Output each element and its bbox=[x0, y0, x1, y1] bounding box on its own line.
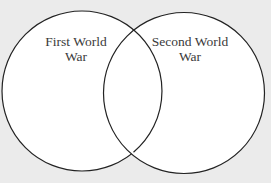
label-first-world-war: First World War bbox=[36, 34, 116, 64]
label-line-2: War bbox=[143, 49, 237, 64]
venn-diagram bbox=[0, 0, 271, 183]
label-line-1: First World bbox=[36, 34, 116, 49]
label-line-1: Second World bbox=[143, 34, 237, 49]
label-line-2: War bbox=[36, 49, 116, 64]
label-second-world-war: Second World War bbox=[143, 34, 237, 64]
